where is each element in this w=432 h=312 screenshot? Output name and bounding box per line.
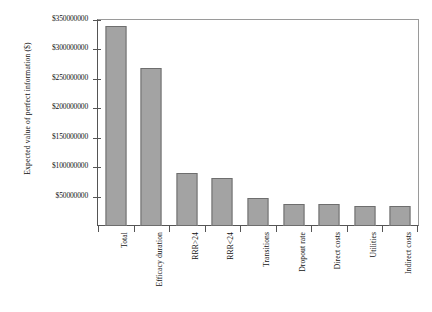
bar-slot bbox=[240, 20, 276, 226]
bar bbox=[390, 206, 411, 226]
x-axis-label-slot: Total bbox=[98, 232, 134, 312]
bar-slot bbox=[382, 20, 418, 226]
y-axis-tick-label: $100000000 bbox=[52, 161, 88, 170]
x-axis-label-slot: Utilities bbox=[347, 232, 383, 312]
x-axis-label: RRR<24 bbox=[226, 232, 235, 260]
y-axis-tick-label: $350000000 bbox=[52, 14, 88, 23]
bars-group bbox=[98, 20, 418, 226]
bar-slot bbox=[276, 20, 312, 226]
x-axis-label-slot: RRR>24 bbox=[169, 232, 205, 312]
bar bbox=[176, 173, 197, 226]
x-axis-label: Transitions bbox=[262, 232, 271, 267]
bar-slot bbox=[311, 20, 347, 226]
x-axis-label: Efficacy duration bbox=[155, 232, 164, 286]
bar bbox=[247, 198, 268, 226]
y-axis-tick-label: $50000000 bbox=[56, 191, 88, 200]
bar bbox=[283, 204, 304, 226]
bar-slot bbox=[169, 20, 205, 226]
bar-slot bbox=[98, 20, 134, 226]
bar bbox=[212, 178, 233, 226]
x-axis-label: RRR>24 bbox=[191, 232, 200, 260]
y-axis-tick-label: $200000000 bbox=[52, 102, 88, 111]
bar bbox=[105, 26, 126, 226]
x-axis-labels: TotalEfficacy durationRRR>24RRR<24Transi… bbox=[98, 232, 418, 312]
bar bbox=[319, 204, 340, 226]
x-axis-label-slot: Transitions bbox=[240, 232, 276, 312]
y-axis-tick-label: $150000000 bbox=[52, 132, 88, 141]
x-axis-label: Dropout rate bbox=[298, 232, 307, 272]
y-axis-tick-label: $250000000 bbox=[52, 73, 88, 82]
x-axis-label-slot: Efficacy duration bbox=[134, 232, 170, 312]
bar bbox=[141, 68, 162, 226]
x-axis-label: Total bbox=[120, 232, 129, 248]
x-axis-label: Utilities bbox=[369, 232, 378, 257]
x-axis-label: Indirect costs bbox=[404, 232, 413, 274]
x-axis-label-slot: Direct costs bbox=[311, 232, 347, 312]
y-axis-tick-label: $300000000 bbox=[52, 43, 88, 52]
bar-slot bbox=[134, 20, 170, 226]
bar-slot bbox=[205, 20, 241, 226]
y-axis-title: Expected value of perfect information ($… bbox=[23, 9, 32, 209]
bar bbox=[354, 206, 375, 226]
bar-slot bbox=[347, 20, 383, 226]
bar-chart: Expected value of perfect information ($… bbox=[0, 0, 432, 312]
x-axis-label-slot: Indirect costs bbox=[382, 232, 418, 312]
x-axis-label: Direct costs bbox=[333, 232, 342, 269]
x-axis-label-slot: Dropout rate bbox=[276, 232, 312, 312]
x-axis-label-slot: RRR<24 bbox=[205, 232, 241, 312]
